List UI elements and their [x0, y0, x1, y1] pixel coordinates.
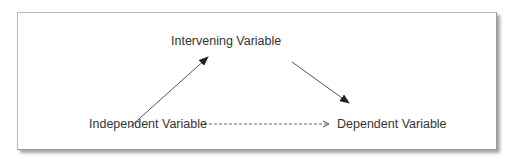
dependent-variable-label: Dependent Variable [337, 117, 447, 131]
arrows-layer [0, 0, 521, 160]
arrow-intervening-to-dependent [292, 62, 349, 103]
independent-variable-label: Independent Variable [89, 117, 207, 131]
intervening-variable-label: Intervening Variable [171, 34, 281, 48]
